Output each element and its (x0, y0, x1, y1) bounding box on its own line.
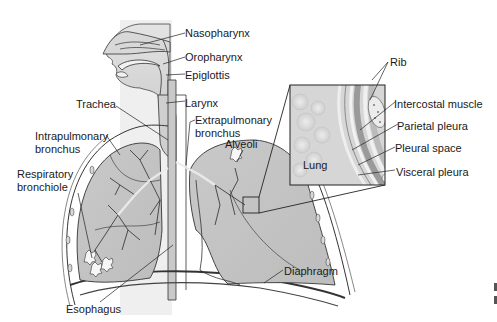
label-nasopharynx: Nasopharynx (185, 27, 250, 39)
label-esophagus: Esophagus (66, 303, 121, 315)
label-intercostal-muscle: Intercostal muscle (394, 98, 483, 110)
anatomy-illustration (0, 0, 497, 322)
label-alveoli: Alveoli (225, 138, 257, 150)
label-oropharynx: Oropharynx (185, 51, 242, 63)
label-epiglottis: Epiglottis (185, 69, 230, 81)
inset-label-lung: Lung (303, 159, 327, 171)
label-visceral-pleura: Visceral pleura (396, 166, 469, 178)
label-respiratory-bronchiole: Respiratory bronchiole (17, 168, 73, 194)
right-lung (77, 143, 168, 282)
respiratory-diagram: Nasopharynx Oropharynx Epiglottis Trache… (0, 0, 497, 322)
label-intrapulmonary-bronchus: Intrapulmonary bronchus (35, 130, 108, 156)
label-parietal-pleura: Parietal pleura (397, 120, 468, 132)
label-pleural-space: Pleural space (395, 142, 462, 154)
label-diaphragm: Diaphragm (284, 265, 338, 277)
label-larynx: Larynx (185, 97, 218, 109)
label-trachea: Trachea (76, 98, 116, 110)
label-extrapulmonary-bronchus: Extrapulmonary bronchus (195, 114, 272, 140)
label-rib: Rib (390, 56, 407, 68)
